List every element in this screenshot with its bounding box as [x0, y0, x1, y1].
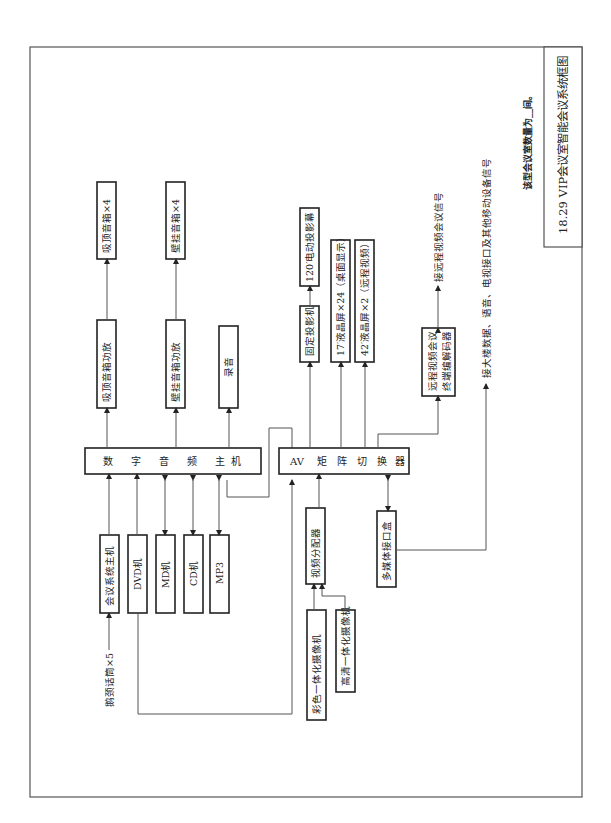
- ceiling-amp-label: 吸顶音箱功放: [101, 342, 112, 402]
- remote-signal-label: 接远程视频会议信号: [433, 192, 444, 282]
- codec-label-line2: 终端编解码器: [441, 331, 452, 391]
- color-camera-label: 彩色一体化摄像机: [311, 634, 322, 714]
- md-label: MD机: [160, 561, 171, 588]
- gooseneck-mic-label: 鹅颈话筒×5: [104, 653, 115, 707]
- wall-speaker-label: 壁挂音箱×4: [170, 199, 181, 253]
- cd-label: CD机: [188, 561, 199, 586]
- media-interface-label: 多媒体接口盒: [381, 521, 392, 581]
- hd-camera-label: 高清一体化摄像机: [340, 606, 351, 686]
- vip-meeting-room-block-diagram: 18.29 VIP会议室智能会议系统框图 该型会议室数量为__间。 数字音频主机…: [0, 0, 611, 823]
- wall-amp-label: 壁挂音箱功放: [170, 342, 181, 402]
- dvd-label: DVD机: [132, 558, 143, 590]
- codec-label-line1: 远程视频会议: [427, 331, 438, 391]
- recording-label: 录音: [223, 357, 234, 377]
- mp3-label: MP3: [214, 562, 225, 584]
- figure-note: 该型会议室数量为__间。: [522, 91, 533, 190]
- screen-label: 120′电动投影幕: [304, 212, 315, 282]
- lcd17-label: 17′液晶屏×24（桌面显示）: [335, 232, 346, 356]
- video-distributor-label: 视频分配器: [310, 528, 321, 578]
- building-signal-label: 接大楼数据、语音、电视接口及其他移动设备信号: [481, 158, 492, 378]
- projector-label: 固定投影机: [304, 306, 315, 356]
- figure-title: 18.29 VIP会议室智能会议系统框图: [556, 56, 570, 234]
- ceiling-speaker-label: 吸顶音箱×4: [101, 199, 112, 253]
- lcd42-label: 42′液晶屏×2（远程视频）: [359, 238, 370, 356]
- conference-host-label: 会议系统主机: [104, 546, 115, 606]
